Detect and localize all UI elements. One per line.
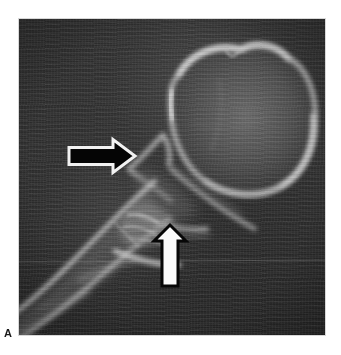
radiograph-image: [19, 19, 325, 335]
figure-panel: A: [0, 0, 341, 355]
rounded-tarsal-bone: [170, 44, 315, 194]
oblique-bone-shaft: [19, 181, 179, 335]
panel-letter-label: A: [4, 326, 12, 340]
scan-seam-artifact: [19, 260, 325, 262]
bone-structures-layer: [19, 19, 325, 335]
